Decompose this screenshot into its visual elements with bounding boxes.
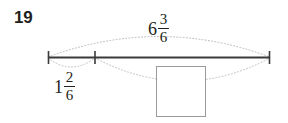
number-line-diagram <box>0 0 288 123</box>
label-known-part-fraction: 2 6 <box>64 70 75 104</box>
label-known-part: 1 2 6 <box>54 70 75 104</box>
worksheet-problem-19: 19 6 3 6 1 2 6 <box>0 0 288 123</box>
label-total-whole: 6 <box>148 20 157 38</box>
label-total-distance: 6 3 6 <box>148 12 169 46</box>
arc-brace-down-small-icon <box>48 58 95 67</box>
label-known-part-numerator: 2 <box>65 70 75 85</box>
label-known-part-denominator: 6 <box>65 88 75 103</box>
answer-box[interactable] <box>157 67 206 117</box>
label-total-numerator: 3 <box>159 12 169 27</box>
label-total-denominator: 6 <box>159 30 169 45</box>
label-known-part-whole: 1 <box>54 78 63 96</box>
label-total-fraction: 3 6 <box>158 12 169 46</box>
